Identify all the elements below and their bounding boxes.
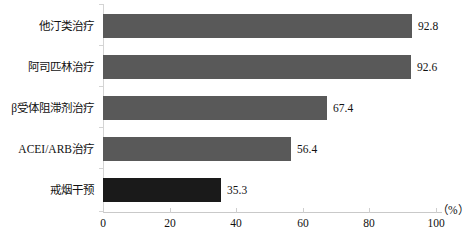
category-label: 戒烟干预 <box>0 178 94 202</box>
category-label: 阿司匹林治疗 <box>0 55 94 79</box>
bar-value-label: 67.4 <box>333 96 353 120</box>
bar <box>103 55 411 79</box>
bar-value-label: 92.8 <box>418 14 438 38</box>
category-label: 他汀类治疗 <box>0 14 94 38</box>
y-axis-tick <box>99 168 104 169</box>
x-axis-tick-label: 20 <box>150 216 190 230</box>
x-axis-tick-label: 80 <box>349 216 389 230</box>
bar <box>103 14 412 38</box>
x-axis-tick <box>236 208 237 213</box>
horizontal-bar-chart: 他汀类治疗 92.8 阿司匹林治疗 92.6 β受体阻滞剂治疗 67.4 ACE… <box>0 0 476 247</box>
x-axis-tick-label: 40 <box>216 216 256 230</box>
bar <box>103 96 327 120</box>
x-axis-tick-label: 60 <box>283 216 323 230</box>
y-axis-tick <box>99 127 104 128</box>
x-axis-tick-label: 0 <box>83 216 123 230</box>
x-axis-tick-label: 100 <box>416 216 456 230</box>
x-axis-line <box>103 212 442 213</box>
category-label: β受体阻滞剂治疗 <box>0 96 94 120</box>
bar-value-label: 92.6 <box>417 55 437 79</box>
y-axis-tick <box>99 45 104 46</box>
x-axis-tick <box>303 208 304 213</box>
bar <box>103 178 221 202</box>
x-axis-tick <box>369 208 370 213</box>
axis-unit-label: （%） <box>437 203 469 217</box>
bar <box>103 137 291 161</box>
y-axis-tick <box>99 4 104 5</box>
bar-value-label: 35.3 <box>227 178 247 202</box>
category-label: ACEI/ARB治疗 <box>0 137 94 161</box>
x-axis-tick <box>103 208 104 213</box>
x-axis-tick <box>170 208 171 213</box>
y-axis-tick <box>99 86 104 87</box>
bar-value-label: 56.4 <box>297 137 317 161</box>
